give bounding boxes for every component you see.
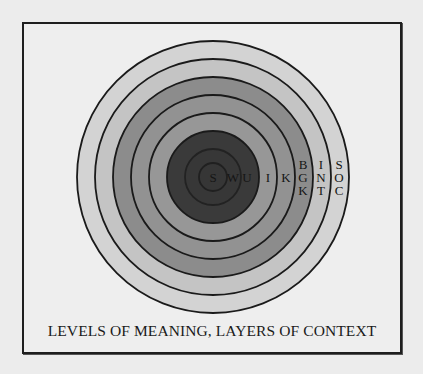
label-soc-c: C — [335, 183, 344, 198]
label-u: U — [242, 170, 252, 185]
concentric-circles-diagram: S W U I K B G K I N T S O C — [0, 0, 423, 374]
label-int-t: T — [317, 183, 325, 198]
label-i: I — [266, 170, 270, 185]
label-w: W — [227, 170, 240, 185]
label-bgk-k: K — [298, 183, 308, 198]
label-s: S — [209, 170, 216, 185]
label-k: K — [281, 170, 291, 185]
figure-caption: LEVELS OF MEANING, LAYERS OF CONTEXT — [24, 322, 400, 340]
